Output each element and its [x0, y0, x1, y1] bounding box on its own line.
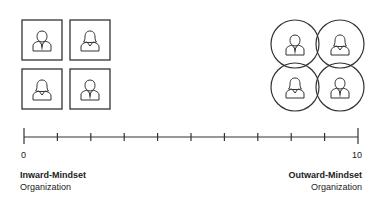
inward-subtitle: Organization — [20, 182, 71, 193]
scale-min-label: 0 — [21, 150, 26, 161]
person-square-1 — [22, 20, 62, 60]
scale-axis — [24, 128, 358, 144]
outward-title: Outward-Mindset — [289, 170, 363, 181]
person-square-3 — [22, 69, 62, 109]
woman-icon — [33, 80, 51, 100]
person-circle-2 — [316, 20, 364, 68]
inward-group — [22, 20, 110, 109]
woman-icon — [286, 78, 304, 98]
person-circle-1 — [271, 20, 319, 68]
man-icon — [286, 35, 304, 55]
woman-icon — [81, 31, 99, 51]
outward-group — [271, 20, 364, 111]
man-icon — [331, 78, 349, 98]
inward-title: Inward-Mindset — [20, 170, 86, 181]
woman-icon — [331, 35, 349, 55]
person-circle-4 — [316, 63, 364, 111]
man-icon — [81, 80, 99, 100]
outward-subtitle: Organization — [311, 182, 362, 193]
man-icon — [33, 31, 51, 51]
person-square-4 — [70, 69, 110, 109]
person-circle-3 — [271, 63, 319, 111]
scale-max-label: 10 — [352, 150, 362, 161]
person-square-2 — [70, 20, 110, 60]
